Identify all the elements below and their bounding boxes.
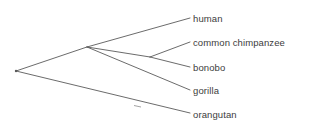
tip-label-gorilla: gorilla xyxy=(193,85,219,96)
tip-label-bonobo: bonobo xyxy=(193,62,225,73)
tip-label-human: human xyxy=(193,13,223,24)
branch-group xyxy=(16,18,190,113)
branch-african-ape-to-gorilla xyxy=(87,47,190,90)
branch-african-ape-to-human xyxy=(87,18,190,47)
tip-label-common-chimpanzee: common chimpanzee xyxy=(193,37,285,48)
node-group xyxy=(15,70,17,72)
branch-root-to-orangutan xyxy=(16,71,190,113)
tree-branches-svg xyxy=(0,0,310,135)
phylogenetic-tree-figure: human common chimpanzee bonobo gorilla o… xyxy=(0,0,310,135)
branch-african-ape-to-pan xyxy=(87,47,150,57)
branch-root-to-african-ape xyxy=(16,47,87,71)
branch-pan-to-chimpanzee xyxy=(150,42,190,57)
branch-pan-to-bonobo xyxy=(150,57,190,67)
branch-marker-orangutan xyxy=(134,106,141,108)
marker-group xyxy=(134,106,141,108)
root-node-dot xyxy=(15,70,17,72)
tip-label-orangutan: orangutan xyxy=(193,109,237,120)
